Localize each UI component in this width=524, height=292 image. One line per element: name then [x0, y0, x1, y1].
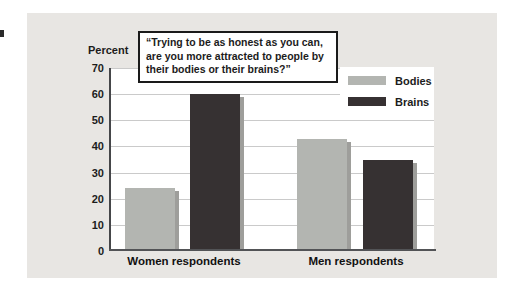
gridline-50	[111, 120, 434, 121]
scan-artifact-mark	[0, 30, 4, 37]
figure-canvas: Percent “Trying to be as honest as you c…	[0, 0, 524, 292]
bar-bodies-men	[297, 139, 347, 251]
gridline-40	[111, 146, 434, 147]
y-tick-label-40: 40	[70, 140, 104, 152]
y-tick-label-10: 10	[70, 219, 104, 231]
bar-shadow	[175, 191, 179, 251]
y-axis-line	[109, 68, 111, 251]
bar-shadow	[413, 163, 417, 252]
bar-brains-women	[190, 94, 240, 251]
y-tick-label-60: 60	[70, 88, 104, 100]
legend-item-bodies: Bodies	[348, 75, 434, 87]
bar-shadow	[347, 142, 351, 251]
bar-shadow	[240, 97, 244, 251]
y-tick-label-0: 0	[70, 245, 104, 257]
y-tick-label-30: 30	[70, 167, 104, 179]
y-axis-title: Percent	[88, 44, 128, 56]
y-tick-label-70: 70	[70, 62, 104, 74]
legend-item-brains: Brains	[348, 96, 434, 108]
y-tick-label-50: 50	[70, 114, 104, 126]
x-axis-line	[109, 249, 436, 251]
bar-bodies-women	[125, 188, 175, 251]
legend: BodiesBrains	[340, 67, 434, 115]
category-label-men: Men respondents	[281, 255, 431, 269]
survey-question-annotation: “Trying to be as honest as you can, are …	[138, 31, 338, 83]
legend-swatch-bodies	[348, 76, 386, 85]
category-label-women: Women respondents	[109, 255, 259, 269]
y-tick-label-20: 20	[70, 193, 104, 205]
legend-swatch-brains	[348, 97, 386, 106]
bar-brains-men	[363, 160, 413, 252]
legend-label-brains: Brains	[395, 96, 429, 108]
legend-label-bodies: Bodies	[395, 75, 432, 87]
